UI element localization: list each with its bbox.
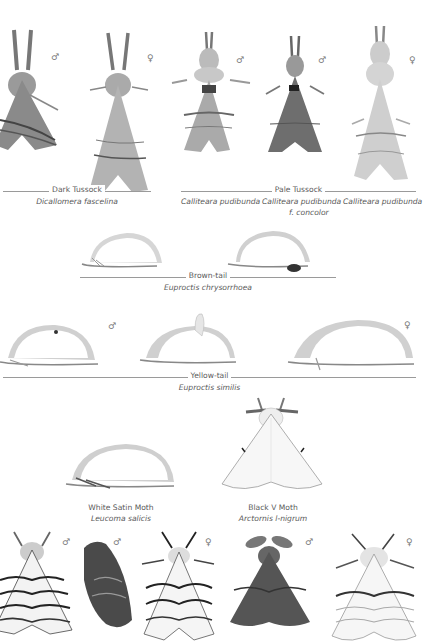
species-common-name: Pale Tussock xyxy=(272,185,326,194)
species-scientific-name: Arctornis l-nigrum xyxy=(218,514,328,523)
bottom-moth-3-illustration xyxy=(140,530,216,644)
brown-tail-illustration-2 xyxy=(228,226,310,274)
pale-tussock-female-illustration xyxy=(350,24,415,184)
pale-tussock-concolor-male-illustration xyxy=(266,34,326,154)
species-scientific-name: Euproctis similis xyxy=(3,383,416,392)
sex-symbol-male: ♂ xyxy=(305,537,313,547)
yellow-tail-female-illustration xyxy=(288,314,416,370)
yellow-tail-illustration-2 xyxy=(140,312,240,368)
pale-tussock-male-illustration xyxy=(172,30,252,155)
sex-symbol-male: ♂ xyxy=(108,321,116,331)
sex-symbol-female: ♀ xyxy=(404,320,411,330)
sex-symbol-male: ♂ xyxy=(318,55,326,65)
species-common-name: Brown-tail xyxy=(186,271,230,280)
species-scientific-name: Calliteara pudibunda xyxy=(262,197,341,206)
species-scientific-name: Calliteara pudibunda xyxy=(181,197,260,206)
sex-symbol-female: ♀ xyxy=(147,53,154,63)
sex-symbol-male: ♂ xyxy=(113,537,121,547)
bottom-moth-2-illustration xyxy=(80,540,136,630)
bottom-moth-4-illustration xyxy=(230,530,310,630)
species-scientific-name: Leucoma salicis xyxy=(66,514,176,523)
species-common-name: Dark Tussock xyxy=(49,185,105,194)
brown-tail-illustration-1 xyxy=(82,228,162,270)
species-common-name: White Satin Moth xyxy=(66,503,176,512)
form-name: f. concolor xyxy=(289,208,329,217)
yellow-tail-male-illustration xyxy=(0,322,100,368)
sex-symbol-male: ♂ xyxy=(62,537,70,547)
species-common-name: Yellow-tail xyxy=(188,371,232,380)
sex-symbol-female: ♀ xyxy=(409,55,416,65)
sex-symbol-male: ♂ xyxy=(51,52,59,62)
species-scientific-name: Euproctis chrysorrhoea xyxy=(80,283,336,292)
species-common-name: Black V Moth xyxy=(218,503,328,512)
species-scientific-name: Dicallomera fascelina xyxy=(0,197,154,206)
dark-tussock-male-illustration xyxy=(0,25,60,155)
sex-symbol-female: ♀ xyxy=(205,537,212,547)
sex-symbol-male: ♂ xyxy=(236,55,244,65)
sex-symbol-female: ♀ xyxy=(406,537,413,547)
bottom-moth-5-illustration xyxy=(330,532,420,644)
black-v-moth-illustration xyxy=(218,396,328,494)
species-scientific-name: Calliteara pudibunda xyxy=(343,197,422,206)
white-satin-moth-illustration xyxy=(66,440,176,490)
dark-tussock-female-illustration xyxy=(88,30,152,170)
